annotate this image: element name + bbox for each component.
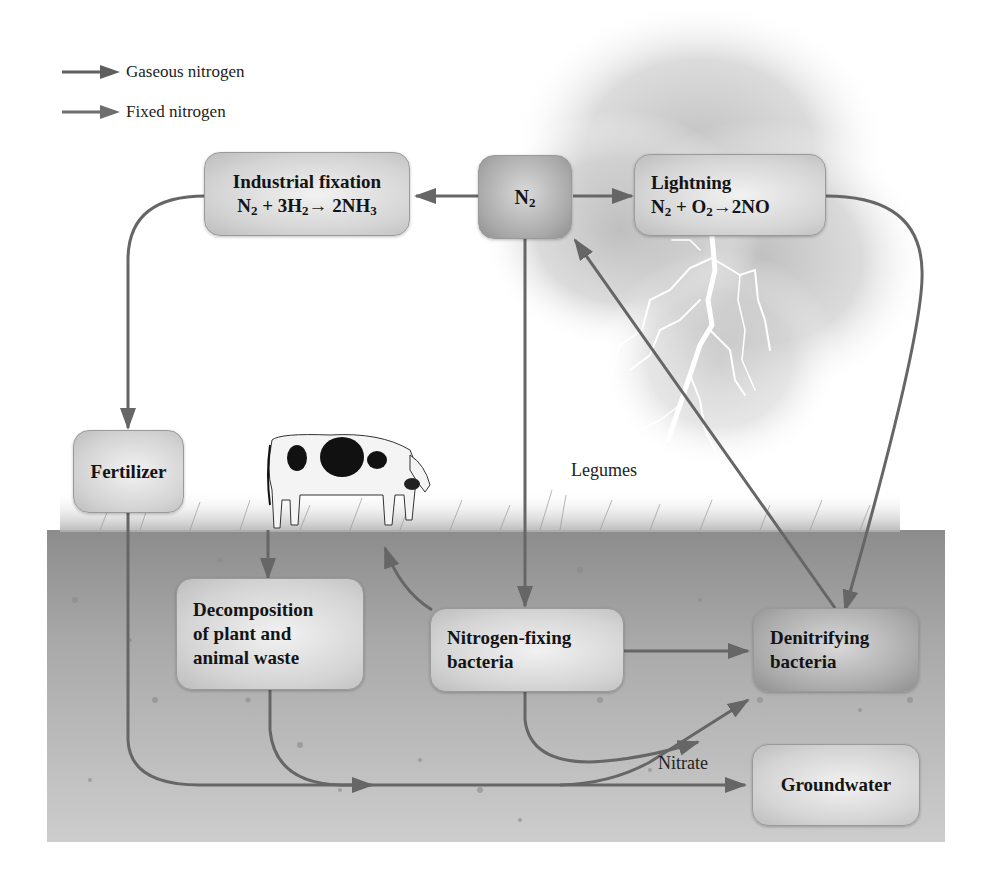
node-line: bacteria: [447, 650, 623, 674]
node-industrial-fixation: Industrial fixation N2 + 3H2→ 2NH3: [204, 152, 410, 236]
node-title: Lightning: [651, 171, 825, 195]
fixed-arrow-icon: [62, 105, 120, 119]
legend-gaseous-nitrogen: Gaseous nitrogen: [62, 62, 245, 82]
node-line: Decomposition: [193, 598, 363, 622]
node-decomposition: Decomposition of plant and animal waste: [176, 578, 364, 690]
node-title: Industrial fixation: [233, 170, 381, 194]
node-line: of plant and: [193, 622, 363, 646]
legend-label: Fixed nitrogen: [126, 102, 226, 122]
node-title: Groundwater: [781, 773, 891, 797]
industrial-equation: N2 + 3H2→ 2NH3: [237, 194, 377, 218]
node-line: Nitrogen-fixing: [447, 626, 623, 650]
node-denitrifying-bacteria: Denitrifying bacteria: [753, 608, 919, 692]
legend-label: Gaseous nitrogen: [126, 62, 245, 82]
node-line: bacteria: [770, 650, 918, 674]
lightning-equation: N2 + O2→2NO: [651, 195, 825, 219]
node-line: Denitrifying: [770, 626, 918, 650]
node-lightning: Lightning N2 + O2→2NO: [634, 154, 826, 236]
node-groundwater: Groundwater: [752, 744, 920, 826]
node-title: Fertilizer: [91, 460, 167, 484]
node-n2: N2: [478, 155, 572, 239]
n2-label: N2: [515, 185, 536, 209]
grass-band: [60, 490, 900, 532]
node-line: animal waste: [193, 646, 363, 670]
legumes-label: Legumes: [571, 460, 637, 481]
legend-fixed-nitrogen: Fixed nitrogen: [62, 102, 226, 122]
arrow-industrial-to-fertilizer: [128, 196, 205, 428]
nitrate-label: Nitrate: [658, 753, 708, 774]
gaseous-arrow-icon: [62, 65, 120, 79]
node-fertilizer: Fertilizer: [73, 430, 184, 513]
node-nitrogen-fixing-bacteria: Nitrogen-fixing bacteria: [430, 608, 624, 692]
